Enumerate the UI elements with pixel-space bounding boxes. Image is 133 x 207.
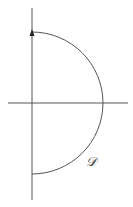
nyquist-contour-diagram: 𝒟: [0, 0, 133, 207]
contour-label: 𝒟: [86, 154, 99, 169]
